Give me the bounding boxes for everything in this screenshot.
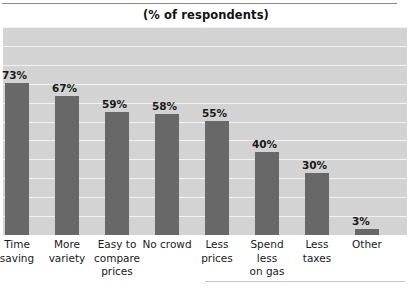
category-label-line: less: [242, 252, 292, 266]
category-label-line: taxes: [292, 252, 342, 266]
bar-value-label: 3%: [352, 215, 370, 227]
category-label: Other: [342, 238, 392, 252]
category-label-line: Time: [0, 238, 42, 252]
category-label: No crowd: [142, 238, 192, 252]
category-label-line: compare: [92, 252, 142, 266]
category-label-line: variety: [42, 252, 92, 266]
category-label-line: saving: [0, 252, 42, 266]
chart-figure: (% of respondents) 73%67%59%58%55%40%30%…: [0, 0, 412, 288]
category-label: Lessprices: [192, 238, 242, 265]
category-label: Spendlesson gas: [242, 238, 292, 279]
bar-value-label: 55%: [202, 107, 227, 119]
category-label: Easy tocompareprices: [92, 238, 142, 279]
category-label: Timesaving: [0, 238, 42, 265]
category-label: Lesstaxes: [292, 238, 342, 265]
top-divider-rule: [2, 3, 397, 4]
category-label: Morevariety: [42, 238, 92, 265]
bar-value-label: 59%: [102, 98, 127, 110]
category-label-line: No crowd: [142, 238, 192, 252]
bar-value-label: 40%: [252, 138, 277, 150]
bar-value-labels: 73%67%59%58%55%40%30%3%: [3, 27, 407, 235]
bottom-divider-rule: [205, 281, 405, 282]
category-label-line: prices: [192, 252, 242, 266]
bar-value-label: 73%: [2, 69, 27, 81]
category-label-line: Less: [292, 238, 342, 252]
bar-value-label: 67%: [52, 82, 77, 94]
category-label-line: Easy to: [92, 238, 142, 252]
bar-value-label: 30%: [302, 159, 327, 171]
category-label-line: Other: [342, 238, 392, 252]
category-label-line: prices: [92, 265, 142, 279]
category-label-line: Less: [192, 238, 242, 252]
category-label-line: More: [42, 238, 92, 252]
category-label-line: on gas: [242, 265, 292, 279]
category-label-line: Spend: [242, 238, 292, 252]
chart-title: (% of respondents): [0, 8, 412, 22]
bar-value-label: 58%: [152, 100, 177, 112]
